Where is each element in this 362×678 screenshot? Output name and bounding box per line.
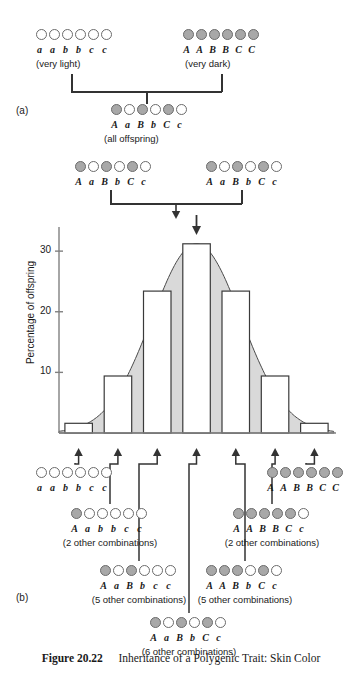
recessive-allele-dot [140,161,151,172]
dominant-allele-dot [235,29,246,40]
allele-symbol: b [59,482,72,493]
allele-symbol: c [149,580,162,591]
panel-b-combination-note: (5 other combinations) [198,594,293,605]
recessive-allele-dot [84,508,95,519]
dominant-allele-dot [100,565,111,576]
allele-symbol: A [216,580,229,591]
chart-plot [0,215,362,460]
allele-symbol: A [243,523,256,534]
dominant-allele-dot [206,565,217,576]
chart-bar [261,376,289,433]
dominant-allele-dot [176,617,187,628]
dominant-allele-dot [196,29,207,40]
allele-symbol: b [94,523,107,534]
panel-b-allele-row [100,565,176,576]
chart-bar [222,291,250,433]
allele-symbol: a [33,482,46,493]
allele-symbol: A [203,176,216,187]
recessive-allele-dot [113,565,124,576]
dominant-allele-dot [206,161,217,172]
chart-bar [144,291,172,433]
recessive-allele-dot [62,29,73,40]
allele-symbol: c [212,632,225,643]
recessive-allele-dot [124,104,135,115]
allele-symbol: C [232,44,245,55]
allele-symbol: b [242,176,255,187]
dominant-allele-dot [293,467,304,478]
allele-symbol: A [264,482,277,493]
recessive-allele-dot [101,29,112,40]
panel-b-combination-note: (2 other combinations) [63,537,158,548]
figure-caption: Figure 20.22 Inheritance of a Polygenic … [0,652,362,664]
allele-symbol: a [81,523,94,534]
f1-cross-right-allele-row [206,161,282,172]
allele-symbol: B [269,523,282,534]
dominant-allele-dot [332,467,343,478]
allele-symbol: A [203,580,216,591]
allele-symbol: b [107,523,120,534]
dominant-allele-dot [258,565,269,576]
allele-symbol: B [206,44,219,55]
allele-symbol: c [162,580,175,591]
chart-bar [104,376,132,433]
parent-right-genotype: AABBCC [180,44,258,55]
dominant-allele-dot [127,161,138,172]
parent-left-allele-row [36,29,112,40]
allele-symbol: A [108,119,121,130]
panel-b-allele-row [267,467,343,478]
allele-symbol: b [72,44,85,55]
allele-symbol: C [160,119,173,130]
dominant-allele-dot [285,508,296,519]
dominant-allele-dot [150,617,161,628]
panel-b-genotype: AABBCc [230,523,308,534]
f1-phenotype-note: (all offspring) [104,133,159,144]
allele-symbol: C [329,482,342,493]
allele-symbol: b [111,176,124,187]
allele-symbol: a [110,580,123,591]
recessive-allele-dot [189,617,200,628]
recessive-allele-dot [97,508,108,519]
recessive-allele-dot [114,161,125,172]
panel-b-arrow-shaft [110,454,118,504]
chart-y-tick-label: 30 [27,244,51,255]
panel-b-arrow-shaft [189,454,197,613]
dominant-allele-dot [222,29,233,40]
recessive-allele-dot [139,565,150,576]
recessive-allele-dot [88,161,99,172]
recessive-allele-dot [62,467,73,478]
allele-symbol: A [230,523,243,534]
allele-symbol: A [277,482,290,493]
dominant-allele-dot [137,104,148,115]
recessive-allele-dot [36,467,47,478]
recessive-allele-dot [88,467,99,478]
allele-symbol: a [46,44,59,55]
dominant-allele-dot [202,617,213,628]
allele-symbol: c [268,176,281,187]
dominant-allele-dot [280,467,291,478]
allele-symbol: a [121,119,134,130]
allele-symbol: c [85,482,98,493]
panel-b-combination-note: (5 other combinations) [92,594,187,605]
recessive-allele-dot [49,467,60,478]
recessive-allele-dot [163,617,174,628]
panel-b-arrow-head [271,448,279,456]
dominant-allele-dot [183,29,194,40]
panel-b-combination-note: (2 other combinations) [225,537,320,548]
allele-symbol: a [216,176,229,187]
allele-symbol: C [199,632,212,643]
dominant-allele-dot [232,565,243,576]
connector-parent-right-stem [221,74,223,92]
allele-symbol: c [137,176,150,187]
dominant-allele-dot [111,104,122,115]
allele-symbol: C [124,176,137,187]
recessive-allele-dot [88,29,99,40]
allele-symbol: A [193,44,206,55]
figure-title: Inheritance of a Polygenic Trait: Skin C… [118,652,320,664]
f1-cross-left-genotype: AaBbCc [72,176,150,187]
allele-symbol: c [133,523,146,534]
allele-symbol: C [282,523,295,534]
allele-symbol: c [120,523,133,534]
allele-symbol: B [134,119,147,130]
dominant-allele-dot [259,508,270,519]
connector-to-f1 [146,91,148,104]
